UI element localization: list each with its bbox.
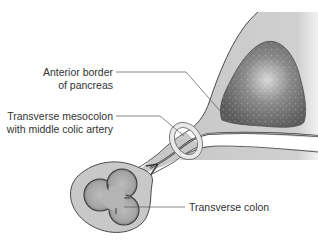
label-transverse-colon: Transverse colon	[189, 201, 269, 214]
label-line: Anterior border	[6, 66, 113, 79]
label-line: with middle colic artery	[0, 123, 113, 136]
leader-line-pancreas	[116, 72, 222, 113]
label-anterior-border-pancreas: Anterior border of pancreas	[6, 66, 113, 91]
label-transverse-mesocolon: Transverse mesocolon with middle colic a…	[0, 110, 113, 135]
label-line: Transverse mesocolon	[0, 110, 113, 123]
anatomy-diagram: Anterior border of pancreas Transverse m…	[0, 0, 318, 248]
label-line: of pancreas	[6, 79, 113, 92]
label-line: Transverse colon	[189, 201, 269, 214]
